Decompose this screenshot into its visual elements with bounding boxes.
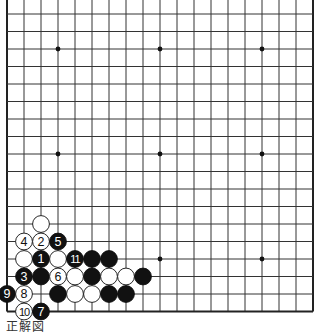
move-number-label: 8: [21, 287, 28, 301]
stone-disc: [16, 251, 33, 268]
stone-disc: [101, 251, 118, 268]
star-point: [260, 47, 265, 52]
stone-disc: [118, 286, 135, 303]
black-stone: 3: [16, 268, 33, 285]
diagram-caption: 正解図: [6, 317, 45, 334]
move-number-label: 1: [38, 252, 45, 266]
black-stone: [101, 286, 118, 303]
black-stone: 5: [50, 233, 67, 250]
stone-disc: [101, 268, 118, 285]
move-number-label: 9: [4, 287, 11, 301]
stone-disc: [84, 286, 101, 303]
move-number-label: 2: [38, 235, 45, 249]
star-point: [56, 47, 61, 52]
black-stone: [135, 268, 152, 285]
star-point: [158, 152, 163, 157]
stone-disc: [50, 251, 67, 268]
white-stone: [16, 251, 33, 268]
white-stone: [118, 268, 135, 285]
stone-disc: [84, 268, 101, 285]
star-point: [260, 152, 265, 157]
black-stone: 11: [67, 251, 84, 268]
black-stone: 1: [33, 251, 50, 268]
stone-disc: [67, 268, 84, 285]
white-stone: [67, 268, 84, 285]
white-stone: 8: [16, 286, 33, 303]
stone-disc: [118, 268, 135, 285]
move-number-label: 4: [21, 235, 28, 249]
stone-disc: [101, 286, 118, 303]
black-stone: 9: [0, 286, 15, 303]
black-stone: [84, 268, 101, 285]
star-point: [158, 257, 163, 262]
stone-disc: [84, 251, 101, 268]
move-number-label: 11: [70, 253, 80, 265]
move-number-label: 5: [55, 235, 62, 249]
white-stone: 2: [33, 233, 50, 250]
star-point: [158, 47, 163, 52]
white-stone: [84, 286, 101, 303]
move-number-label: 3: [21, 270, 28, 284]
white-stone: 6: [50, 268, 67, 285]
white-stone: [50, 251, 67, 268]
move-number-label: 6: [55, 270, 62, 284]
white-stone: 4: [16, 233, 33, 250]
black-stone: [118, 286, 135, 303]
move-number-label: 10: [19, 306, 30, 318]
stone-disc: [33, 216, 50, 233]
stones-layer: 4251113698107: [0, 216, 151, 320]
white-stone: [101, 268, 118, 285]
white-stone: [33, 216, 50, 233]
star-point: [260, 257, 265, 262]
stone-disc: [67, 286, 84, 303]
stone-disc: [33, 268, 50, 285]
black-stone: [33, 268, 50, 285]
black-stone: [50, 286, 67, 303]
stone-disc: [50, 286, 67, 303]
black-stone: [84, 251, 101, 268]
stone-disc: [135, 268, 152, 285]
black-stone: [101, 251, 118, 268]
white-stone: [67, 286, 84, 303]
star-point: [56, 152, 61, 157]
